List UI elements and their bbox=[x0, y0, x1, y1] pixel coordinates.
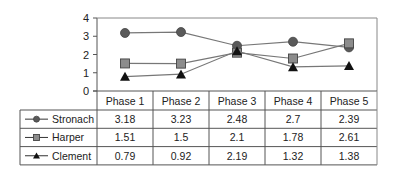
data-table: Phase 1Phase 2Phase 3Phase 4Phase 5Stron… bbox=[20, 91, 377, 165]
line-chart-with-data-table: 01234 Phase 1Phase 2Phase 3Phase 4Phase … bbox=[0, 0, 394, 170]
y-tick-label: 0 bbox=[83, 85, 89, 97]
y-axis: 01234 bbox=[83, 12, 97, 97]
table-cell: 1.5 bbox=[174, 131, 189, 143]
table-cell: 1.78 bbox=[283, 131, 304, 143]
circle-marker-icon bbox=[34, 116, 40, 122]
y-tick-label: 4 bbox=[83, 12, 89, 24]
y-tick-label: 2 bbox=[83, 49, 89, 61]
y-tick-label: 3 bbox=[83, 30, 89, 42]
square-marker-icon bbox=[121, 59, 130, 68]
table-row-stronach: Stronach3.183.232.482.72.39 bbox=[25, 113, 359, 125]
legend-label: Clement bbox=[52, 150, 91, 162]
table-cell: 3.18 bbox=[115, 113, 136, 125]
table-header-cell: Phase 4 bbox=[274, 95, 313, 107]
table-cell: 1.32 bbox=[283, 150, 304, 162]
table-cell: 1.38 bbox=[339, 150, 360, 162]
table-cell: 2.1 bbox=[230, 131, 245, 143]
table-cell: 2.61 bbox=[339, 131, 360, 143]
table-cell: 2.39 bbox=[339, 113, 360, 125]
table-cell: 2.19 bbox=[227, 150, 248, 162]
table-cell: 0.92 bbox=[171, 150, 192, 162]
table-row-clement: Clement0.790.922.191.321.38 bbox=[25, 150, 359, 162]
table-header-cell: Phase 1 bbox=[106, 95, 145, 107]
square-marker-icon bbox=[289, 54, 298, 63]
table-cell: 1.51 bbox=[115, 131, 136, 143]
legend-label: Harper bbox=[52, 131, 85, 143]
table-cell: 3.23 bbox=[171, 113, 192, 125]
table-cell: 2.48 bbox=[227, 113, 248, 125]
circle-marker-icon bbox=[121, 28, 130, 37]
circle-marker-icon bbox=[177, 28, 186, 37]
circle-marker-icon bbox=[289, 37, 298, 46]
series-layer bbox=[120, 28, 354, 81]
square-marker-icon bbox=[345, 39, 354, 48]
legend-label: Stronach bbox=[52, 113, 94, 125]
table-cell: 0.79 bbox=[115, 150, 136, 162]
table-row-harper: Harper1.511.52.11.782.61 bbox=[25, 131, 359, 143]
table-header-cell: Phase 5 bbox=[330, 95, 369, 107]
table-header-cell: Phase 3 bbox=[218, 95, 257, 107]
table-cell: 2.7 bbox=[286, 113, 301, 125]
square-marker-icon bbox=[177, 59, 186, 68]
table-header-cell: Phase 2 bbox=[162, 95, 201, 107]
square-marker-icon bbox=[34, 134, 40, 140]
y-tick-label: 1 bbox=[83, 67, 89, 79]
